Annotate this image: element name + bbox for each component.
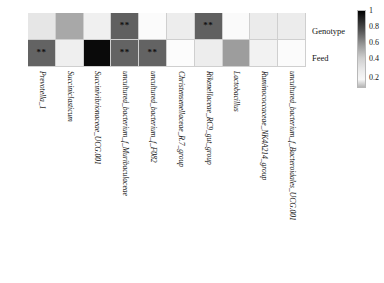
significance-marker: ** xyxy=(203,21,213,30)
column-label: Ruminococcaceae_NK4A214_group xyxy=(260,71,269,180)
heatmap-cell[interactable] xyxy=(250,13,278,40)
heatmap-cell[interactable] xyxy=(278,13,306,40)
colorbar-tick: 0.6 xyxy=(369,38,379,47)
column-label: Prevotella_1 xyxy=(37,71,46,109)
column-labels: Prevotella_1 Succiniclasticum Succinivib… xyxy=(28,69,306,269)
heatmap-cell[interactable] xyxy=(84,13,112,40)
column-label: Succiniclasticum xyxy=(65,71,74,122)
significance-marker: ** xyxy=(36,48,46,57)
heatmap-cell[interactable]: ** xyxy=(139,40,167,67)
row-label-genotype: Genotype xyxy=(312,26,345,36)
heatmap-figure: ** ** ** ** ** Genotype Feed Prevotella_… xyxy=(0,0,384,283)
heatmap-cell[interactable]: ** xyxy=(195,13,223,40)
heatmap-cell[interactable] xyxy=(250,40,278,67)
heatmap-cell[interactable] xyxy=(195,40,223,67)
significance-marker: ** xyxy=(120,21,130,30)
colorbar-tick: 0.8 xyxy=(369,22,379,31)
heatmap-cell[interactable] xyxy=(56,40,84,67)
heatmap-grid: ** ** ** ** ** xyxy=(28,13,306,67)
column-label: Succinivibrionaceae_UCG.001 xyxy=(93,71,102,165)
heatmap-cell[interactable] xyxy=(167,13,195,40)
significance-marker: ** xyxy=(120,48,130,57)
significance-marker: ** xyxy=(148,48,158,57)
heatmap-cell[interactable]: ** xyxy=(111,13,139,40)
heatmap-cell[interactable]: ** xyxy=(111,40,139,67)
heatmap-cell[interactable] xyxy=(223,40,251,67)
heatmap-cell[interactable] xyxy=(56,13,84,40)
heatmap-cell[interactable]: ** xyxy=(28,40,56,67)
heatmap-cell[interactable] xyxy=(278,40,306,67)
heatmap-cell[interactable] xyxy=(84,40,112,67)
heatmap-cell[interactable] xyxy=(139,13,167,40)
column-label: Rikenellaceae_RC9_gut_group xyxy=(204,71,213,165)
colorbar-tick: 1 xyxy=(369,6,373,15)
column-label: uncultured_bacterium_f_Muribaculaceae xyxy=(121,71,130,196)
column-label: Lactobacillus xyxy=(232,71,241,112)
colorbar-tick: 0.4 xyxy=(369,54,379,63)
column-label: uncultured_bacterium_f_F082 xyxy=(149,71,158,163)
column-label: uncultured_bacterium_f_Bacteroidales_UCG… xyxy=(288,71,297,221)
colorbar-gradient xyxy=(357,10,366,88)
heatmap-cell[interactable] xyxy=(28,13,56,40)
heatmap-cell[interactable] xyxy=(167,40,195,67)
row-label-feed: Feed xyxy=(312,53,329,63)
column-label: Christensenellaceae_R.7_group xyxy=(176,71,185,167)
colorbar-tick: 0.2 xyxy=(369,73,379,82)
heatmap-cell[interactable] xyxy=(223,13,251,40)
